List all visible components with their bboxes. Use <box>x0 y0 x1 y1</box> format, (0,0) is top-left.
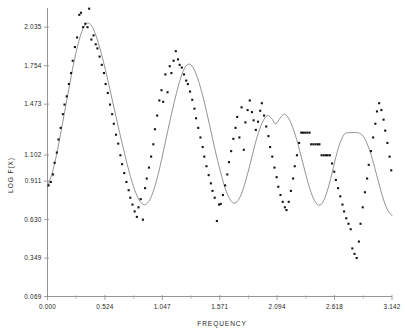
data-point <box>309 132 311 134</box>
data-point <box>86 26 88 28</box>
data-point <box>162 101 164 103</box>
data-point <box>150 156 152 158</box>
data-point <box>241 106 243 108</box>
data-point <box>214 197 216 199</box>
data-point <box>358 241 360 243</box>
data-point <box>70 72 72 74</box>
data-point <box>93 34 95 36</box>
x-axis-tick-labels: 0.0000.5241.0471.5712.0942.6183.142 <box>39 303 401 310</box>
data-point <box>181 67 183 69</box>
y-tick-label: 0.630 <box>24 216 41 223</box>
data-point <box>384 130 386 132</box>
data-point <box>115 134 117 136</box>
data-point <box>169 65 171 67</box>
data-point <box>103 72 105 74</box>
x-axis-title: FREQUENCY <box>197 320 247 328</box>
data-point <box>197 127 199 129</box>
data-point <box>62 113 64 115</box>
data-point <box>95 43 97 45</box>
data-point <box>111 113 113 115</box>
data-point <box>261 102 263 104</box>
x-tick-label: 2.618 <box>326 303 343 310</box>
data-point <box>366 178 368 180</box>
data-point <box>113 123 115 125</box>
data-point <box>339 195 341 197</box>
theoretical-spectrum-line <box>48 23 393 215</box>
data-point <box>134 210 136 212</box>
x-tick-label: 0.524 <box>96 303 113 310</box>
data-point <box>333 171 335 173</box>
data-point <box>72 60 74 62</box>
data-point <box>230 150 232 152</box>
data-point <box>341 204 343 206</box>
data-point <box>156 114 158 116</box>
data-point <box>99 56 101 58</box>
data-point <box>232 138 234 140</box>
data-point <box>205 165 207 167</box>
data-point <box>368 164 370 166</box>
data-point <box>302 132 304 134</box>
data-point <box>60 127 62 129</box>
data-point <box>136 216 138 218</box>
data-point <box>173 60 175 62</box>
data-point <box>259 110 261 112</box>
data-point <box>63 104 65 106</box>
data-point <box>318 143 320 145</box>
axes-group <box>48 8 393 297</box>
data-point <box>284 206 286 208</box>
x-tick-label: 2.094 <box>268 303 285 310</box>
data-point <box>383 119 385 121</box>
data-point <box>78 14 80 16</box>
data-point <box>304 132 306 134</box>
data-point <box>329 154 331 156</box>
data-point <box>105 83 107 85</box>
data-point <box>183 73 185 75</box>
data-point <box>364 191 366 193</box>
data-point <box>362 206 364 208</box>
data-point <box>107 92 109 94</box>
data-point <box>296 154 298 156</box>
data-point <box>372 136 374 138</box>
data-point <box>96 47 98 49</box>
data-point <box>257 121 259 123</box>
data-point <box>80 12 82 14</box>
data-point <box>170 72 172 74</box>
data-point <box>378 102 380 104</box>
data-point <box>50 181 52 183</box>
data-point <box>56 151 58 153</box>
data-point <box>48 184 50 186</box>
data-point <box>282 201 284 203</box>
y-axis-title: LOG F(X) <box>7 157 15 193</box>
data-point <box>146 178 148 180</box>
x-tick-label: 1.047 <box>154 303 171 310</box>
data-point <box>187 83 189 85</box>
data-point <box>137 206 139 208</box>
data-point <box>189 91 191 93</box>
data-point <box>220 203 222 205</box>
y-tick-label: 0.349 <box>24 254 41 261</box>
data-point <box>312 143 314 145</box>
x-tick-label: 3.142 <box>383 303 400 310</box>
data-point <box>263 114 265 116</box>
data-point <box>175 50 177 52</box>
data-point <box>164 73 166 75</box>
y-tick-label: 1.754 <box>24 62 41 69</box>
data-point <box>265 125 267 127</box>
x-tick-label: 0.000 <box>39 303 56 310</box>
x-axis-ticks <box>48 295 393 300</box>
data-point <box>152 143 154 145</box>
data-point <box>66 95 68 97</box>
data-point <box>52 173 54 175</box>
data-point <box>370 150 372 152</box>
data-point <box>129 197 131 199</box>
data-point <box>306 132 308 134</box>
data-point <box>390 169 392 171</box>
data-point <box>154 128 156 130</box>
data-point <box>244 121 246 123</box>
data-point <box>123 172 125 174</box>
data-point <box>224 184 226 186</box>
data-point <box>148 167 150 169</box>
data-point <box>57 138 59 140</box>
data-point <box>211 190 213 192</box>
data-point <box>345 217 347 219</box>
